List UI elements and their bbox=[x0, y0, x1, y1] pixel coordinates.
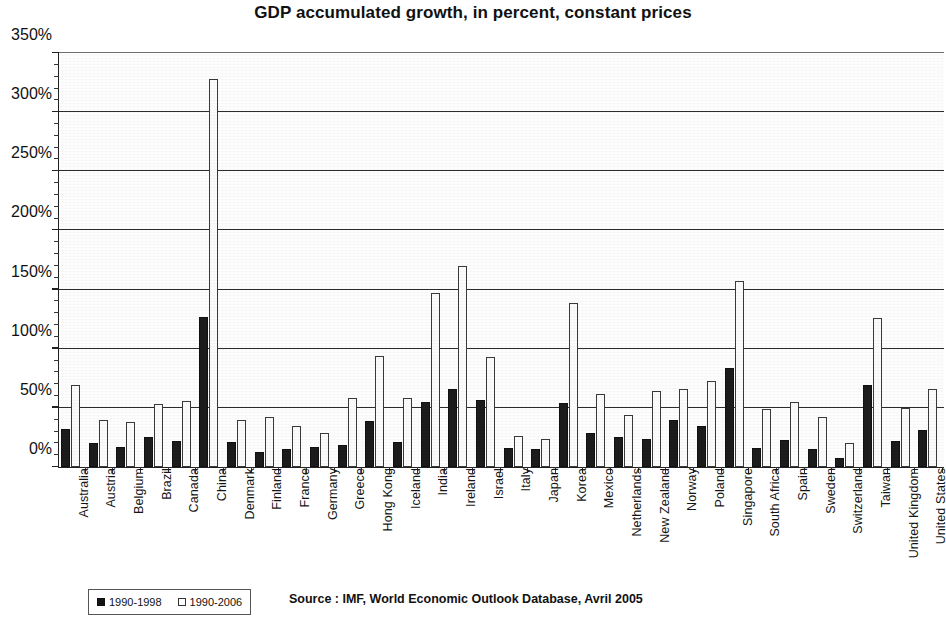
x-axis-label-norway: Norway bbox=[685, 468, 699, 573]
bar-group bbox=[86, 53, 114, 467]
x-axis-label-belgium: Belgium bbox=[132, 468, 146, 573]
bar-group bbox=[252, 53, 280, 467]
x-axis-label-switzerland: Switzerland bbox=[851, 468, 865, 573]
bar-united-kingdom-series-0 bbox=[891, 441, 900, 467]
bar-group bbox=[335, 53, 363, 467]
bar-india-series-1 bbox=[431, 293, 440, 467]
bar-australia-series-1 bbox=[71, 385, 80, 467]
bar-japan-series-1 bbox=[541, 439, 550, 467]
x-axis-label-greece: Greece bbox=[353, 468, 367, 573]
chart-title: GDP accumulated growth, in percent, cons… bbox=[0, 3, 946, 23]
bar-iceland-series-1 bbox=[403, 398, 412, 467]
legend-item-0: 1990-1998 bbox=[97, 596, 162, 608]
x-axis-label-japan: Japan bbox=[547, 468, 561, 573]
bar-group bbox=[473, 53, 501, 467]
bar-spain-series-1 bbox=[790, 402, 799, 467]
bar-australia-series-0 bbox=[61, 429, 70, 467]
y-tick-label-50: 50% bbox=[0, 381, 52, 399]
bar-denmark-series-0 bbox=[227, 442, 236, 467]
bar-sweden-series-1 bbox=[818, 417, 827, 467]
bar-group bbox=[501, 53, 529, 467]
bar-finland-series-1 bbox=[265, 417, 274, 467]
bar-singapore-series-0 bbox=[725, 368, 734, 467]
bar-austria-series-0 bbox=[89, 443, 98, 467]
bar-group bbox=[915, 53, 943, 467]
x-axis-label-canada: Canada bbox=[187, 468, 201, 573]
bar-group bbox=[666, 53, 694, 467]
bar-brazil-series-1 bbox=[154, 404, 163, 467]
bar-hong-kong-series-1 bbox=[375, 356, 384, 467]
bar-taiwan-series-1 bbox=[873, 318, 882, 467]
bar-singapore-series-1 bbox=[735, 281, 744, 467]
bar-group bbox=[611, 53, 639, 467]
bar-group bbox=[556, 53, 584, 467]
bar-group bbox=[362, 53, 390, 467]
x-axis-label-china: China bbox=[215, 468, 229, 573]
bar-ireland-series-1 bbox=[458, 266, 467, 467]
x-axis-label-italy: Italy bbox=[519, 468, 533, 573]
bar-france-series-1 bbox=[292, 426, 301, 467]
x-axis-label-sweden: Sweden bbox=[824, 468, 838, 573]
bar-switzerland-series-1 bbox=[845, 443, 854, 467]
bar-france-series-0 bbox=[282, 449, 291, 467]
bar-germany-series-0 bbox=[310, 447, 319, 467]
bar-germany-series-1 bbox=[320, 433, 329, 467]
x-axis-label-iceland: Iceland bbox=[409, 468, 423, 573]
x-axis-label-korea: Korea bbox=[575, 468, 589, 573]
bar-group bbox=[418, 53, 446, 467]
y-tick-label-300: 300% bbox=[0, 85, 52, 103]
bar-united-kingdom-series-1 bbox=[901, 408, 910, 467]
bar-korea-series-1 bbox=[569, 303, 578, 467]
x-axis-label-australia: Australia bbox=[77, 468, 91, 573]
bar-group bbox=[749, 53, 777, 467]
y-axis-labels: 0%50%100%150%200%250%300%350% bbox=[0, 53, 52, 467]
x-axis-label-germany: Germany bbox=[326, 468, 340, 573]
bar-group bbox=[694, 53, 722, 467]
bar-group bbox=[113, 53, 141, 467]
x-axis-label-new-zealand: New Zealand bbox=[658, 468, 672, 573]
bar-norway-series-1 bbox=[679, 389, 688, 467]
bar-china-series-1 bbox=[209, 79, 218, 467]
legend-label-0: 1990-1998 bbox=[109, 596, 162, 608]
x-axis-label-brazil: Brazil bbox=[160, 468, 174, 573]
bar-greece-series-0 bbox=[338, 445, 347, 467]
x-axis-label-poland: Poland bbox=[713, 468, 727, 573]
source-note: Source : IMF, World Economic Outlook Dat… bbox=[289, 592, 643, 606]
bar-netherlands-series-0 bbox=[614, 437, 623, 467]
bar-switzerland-series-0 bbox=[835, 458, 844, 467]
bar-group bbox=[224, 53, 252, 467]
bar-india-series-0 bbox=[421, 402, 430, 467]
bars-layer bbox=[58, 53, 943, 467]
x-axis-label-france: France bbox=[298, 468, 312, 573]
y-tick-label-0: 0% bbox=[0, 440, 52, 458]
bar-group bbox=[307, 53, 335, 467]
chart-legend: 1990-1998 1990-2006 bbox=[88, 589, 251, 615]
bar-new-zealand-series-1 bbox=[652, 391, 661, 467]
bar-norway-series-0 bbox=[669, 420, 678, 467]
x-axis-label-israel: Israel bbox=[492, 468, 506, 573]
x-axis-label-spain: Spain bbox=[796, 468, 810, 573]
x-axis-label-denmark: Denmark bbox=[243, 468, 257, 573]
bar-israel-series-0 bbox=[476, 400, 485, 467]
bar-mexico-series-1 bbox=[596, 394, 605, 467]
bar-group bbox=[888, 53, 916, 467]
bar-group bbox=[583, 53, 611, 467]
legend-item-1: 1990-2006 bbox=[178, 596, 243, 608]
gdp-growth-bar-chart: GDP accumulated growth, in percent, cons… bbox=[0, 0, 946, 617]
bar-spain-series-0 bbox=[780, 440, 789, 467]
bar-group bbox=[832, 53, 860, 467]
bar-group bbox=[445, 53, 473, 467]
x-axis-labels: AustraliaAustriaBelgiumBrazilCanadaChina… bbox=[58, 470, 943, 575]
x-axis-label-mexico: Mexico bbox=[602, 468, 616, 573]
x-axis-label-hong-kong: Hong Kong bbox=[381, 468, 395, 573]
bar-korea-series-0 bbox=[559, 403, 568, 467]
bar-ireland-series-0 bbox=[448, 389, 457, 467]
bar-south-africa-series-0 bbox=[752, 448, 761, 467]
x-axis-label-united-kingdom: United Kingdom bbox=[907, 468, 921, 573]
x-axis-label-netherlands: Netherlands bbox=[630, 468, 644, 573]
bar-group bbox=[141, 53, 169, 467]
bar-netherlands-series-1 bbox=[624, 415, 633, 467]
bar-china-series-0 bbox=[199, 317, 208, 467]
x-axis-label-finland: Finland bbox=[270, 468, 284, 573]
bar-denmark-series-1 bbox=[237, 420, 246, 467]
